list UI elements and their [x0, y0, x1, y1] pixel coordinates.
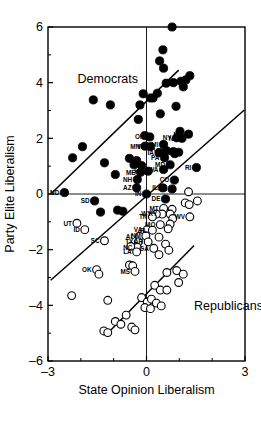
- state-label-ID: ID: [73, 226, 80, 233]
- point-democrats-18: [156, 110, 164, 118]
- point-democrats-47: [111, 170, 119, 178]
- point-democrats-19: [134, 115, 142, 123]
- point-democrats-56: [91, 197, 99, 205]
- point-democrats-48: [133, 175, 141, 183]
- point-republicans-32: [131, 267, 139, 275]
- point-democrats-11: [139, 90, 147, 98]
- point-democrats-16: [136, 101, 144, 109]
- x-tick-label-3: 3: [242, 365, 249, 379]
- state-label-OH: OH: [157, 185, 167, 192]
- state-label-ND: ND: [50, 189, 60, 196]
- point-republicans-43: [104, 296, 112, 304]
- point-republicans-42: [68, 292, 76, 300]
- y-axis-title: Party Elite Liberalism: [3, 135, 17, 252]
- y-tick-label-0: 0: [36, 187, 43, 201]
- y-tick-label--2: –2: [29, 243, 43, 257]
- state-label-NH: NH: [123, 176, 133, 183]
- point-republicans-29: [155, 251, 163, 259]
- state-label-KS: KS: [134, 168, 144, 175]
- point-democrats-49: [170, 176, 178, 184]
- state-label-IN: IN: [135, 190, 142, 197]
- point-democrats-54: [161, 195, 169, 203]
- point-republicans-14: [164, 225, 172, 233]
- point-democrats-59: [119, 207, 127, 215]
- state-label-MS: MS: [121, 268, 131, 275]
- state-label-AZ: AZ: [123, 184, 132, 191]
- point-democrats-35: [78, 143, 86, 151]
- x-axis-title: State Opinion Liberalism: [78, 383, 214, 397]
- state-label-TN: TN: [139, 213, 148, 220]
- state-label-GA: GA: [139, 245, 149, 252]
- point-democrats-13: [146, 94, 154, 102]
- state-label-SC: SC: [91, 237, 100, 244]
- y-tick-label-6: 6: [36, 20, 43, 34]
- point-democrats-55: [60, 189, 68, 197]
- point-republicans-0: [185, 188, 193, 196]
- point-democrats-15: [106, 101, 114, 109]
- state-label-DE: DE: [152, 195, 162, 202]
- point-democrats-14: [89, 96, 97, 104]
- x-tick-label-0: 0: [143, 365, 150, 379]
- x-tick-label--3: –3: [41, 365, 55, 379]
- point-republicans-34: [95, 270, 103, 278]
- state-label-PA: PA: [151, 154, 160, 161]
- point-republicans-38: [175, 279, 183, 287]
- plot-canvas: ORMNWIMINYNJMAVTCTCAIAPAMDRIWAKSMENHCOAZ…: [0, 0, 261, 421]
- point-democrats-8: [162, 79, 170, 87]
- point-democrats-28: [184, 130, 192, 138]
- state-label-LA: LA: [123, 248, 132, 255]
- annotation-democrats: Democrats: [78, 72, 138, 86]
- point-republicans-59: [81, 226, 89, 234]
- state-label-WV: WV: [175, 213, 186, 220]
- state-label-WA: WA: [148, 166, 159, 173]
- point-republicans-48: [157, 302, 165, 310]
- y-tick-label-2: 2: [36, 132, 43, 146]
- point-republicans-11: [186, 213, 194, 221]
- point-republicans-50: [147, 305, 155, 313]
- state-label-ME: ME: [126, 169, 136, 176]
- state-label-OK: OK: [82, 266, 92, 273]
- point-republicans-35: [163, 269, 171, 277]
- point-democrats-51: [168, 185, 176, 193]
- y-tick-label--4: –4: [29, 299, 43, 313]
- point-democrats-9: [179, 83, 187, 91]
- point-republicans-1: [193, 197, 201, 205]
- point-republicans-21: [155, 233, 163, 241]
- state-label-MA: MA: [173, 131, 183, 138]
- point-republicans-28: [101, 237, 109, 245]
- point-republicans-37: [179, 270, 187, 278]
- point-republicans-57: [104, 329, 112, 337]
- point-republicans-53: [117, 320, 125, 328]
- state-label-UT: UT: [63, 220, 72, 227]
- point-democrats-3: [159, 64, 167, 72]
- point-democrats-53: [142, 190, 150, 198]
- point-republicans-55: [131, 326, 139, 334]
- point-democrats-57: [96, 208, 104, 216]
- point-democrats-43: [192, 163, 200, 171]
- point-republicans-51: [122, 311, 130, 319]
- state-label-RI: RI: [185, 164, 192, 171]
- state-label-WI: WI: [138, 143, 146, 150]
- state-label-SD: SD: [81, 197, 90, 204]
- point-democrats-34: [69, 154, 77, 162]
- point-democrats-22: [146, 133, 154, 141]
- annotation-republicans: Republicans: [194, 299, 261, 313]
- point-republicans-27: [165, 246, 173, 254]
- state-label-IL: IL: [152, 184, 158, 191]
- point-republicans-12: [156, 221, 164, 229]
- state-label-CA: CA: [164, 149, 174, 156]
- point-republicans-24: [150, 244, 158, 252]
- scatter-plot-figure: ORMNWIMINYNJMAVTCTCAIAPAMDRIWAKSMENHCOAZ…: [0, 0, 261, 421]
- point-republicans-41: [163, 286, 171, 294]
- state-label-OR: OR: [135, 133, 145, 140]
- point-democrats-17: [172, 102, 180, 110]
- point-democrats-36: [100, 159, 108, 167]
- point-republicans-3: [185, 201, 193, 209]
- point-democrats-1: [159, 46, 167, 54]
- y-tick-label-4: 4: [36, 76, 43, 90]
- state-label-CO: CO: [160, 176, 170, 183]
